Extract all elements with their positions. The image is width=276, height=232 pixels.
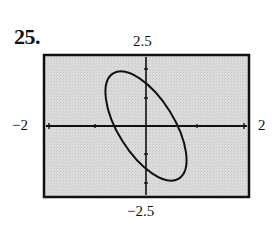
calculator-plot [0, 0, 276, 232]
